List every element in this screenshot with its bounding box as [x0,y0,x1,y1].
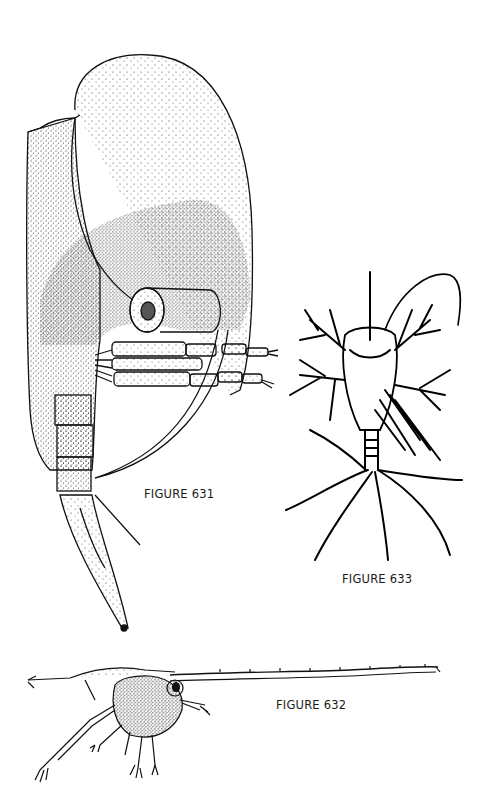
figure-632-label: FIGURE 632 [276,698,346,712]
figure-633-illustration [286,272,462,560]
figure-633-label: FIGURE 633 [342,572,412,586]
figure-632-illustration [28,664,440,782]
figure-631-illustration [27,55,278,631]
plate-illustrations [0,0,488,796]
figure-631-label: FIGURE 631 [144,487,214,501]
figure-plate: FIGURE 631 FIGURE 633 FIGURE 632 [0,0,488,796]
